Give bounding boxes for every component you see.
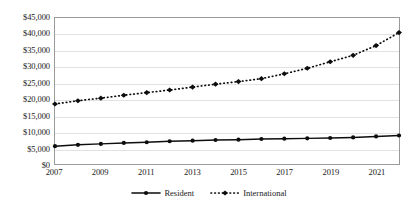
legend-item-resident[interactable]: Resident bbox=[131, 188, 194, 198]
x-tick-label: 2015 bbox=[230, 167, 247, 178]
x-tick-label: 2021 bbox=[369, 167, 386, 178]
y-tick-label: $25,000 bbox=[0, 78, 50, 87]
data-point bbox=[53, 144, 57, 148]
series-resident bbox=[53, 133, 401, 148]
y-tick-label: $20,000 bbox=[0, 95, 50, 104]
data-point bbox=[327, 59, 333, 64]
series-international bbox=[52, 30, 402, 107]
data-point bbox=[121, 93, 127, 98]
data-point bbox=[236, 138, 240, 142]
legend-swatch-circle-icon bbox=[131, 188, 161, 198]
x-tick-label: 2019 bbox=[322, 167, 339, 178]
y-tick-label: $45,000 bbox=[0, 13, 50, 22]
data-point bbox=[397, 133, 401, 137]
data-point bbox=[190, 85, 196, 90]
y-tick-label: $10,000 bbox=[0, 128, 50, 137]
data-point bbox=[168, 139, 172, 143]
data-point bbox=[75, 98, 81, 103]
data-point bbox=[145, 140, 149, 144]
data-point bbox=[167, 87, 173, 92]
data-point bbox=[98, 96, 104, 101]
data-point bbox=[76, 143, 80, 147]
data-point bbox=[213, 82, 219, 87]
data-point bbox=[328, 136, 332, 140]
data-point bbox=[213, 138, 217, 142]
data-point bbox=[259, 137, 263, 141]
data-point bbox=[374, 134, 378, 138]
data-point bbox=[99, 142, 103, 146]
data-point bbox=[282, 137, 286, 141]
x-axis: 20072009201120132015201720192021 bbox=[54, 167, 400, 181]
y-axis: $0$5,000$10,000$15,000$20,000$25,000$30,… bbox=[0, 17, 50, 165]
series-line bbox=[55, 33, 399, 104]
x-tick-label: 2009 bbox=[92, 167, 109, 178]
data-point bbox=[258, 76, 264, 81]
y-tick-label: $40,000 bbox=[0, 29, 50, 38]
plot-area bbox=[54, 17, 400, 165]
y-tick-label: $15,000 bbox=[0, 111, 50, 120]
data-point bbox=[350, 53, 356, 58]
data-point bbox=[305, 136, 309, 140]
y-tick-label: $35,000 bbox=[0, 45, 50, 54]
data-point bbox=[144, 90, 150, 95]
x-tick-label: 2017 bbox=[276, 167, 293, 178]
series-layer bbox=[55, 18, 399, 164]
y-tick-label: $0 bbox=[0, 161, 50, 170]
legend-swatch-diamond-icon bbox=[210, 188, 240, 198]
data-point bbox=[235, 79, 241, 84]
series-line bbox=[55, 135, 399, 146]
data-point bbox=[52, 101, 58, 106]
data-point bbox=[281, 71, 287, 76]
data-point bbox=[191, 139, 195, 143]
legend-item-international[interactable]: International bbox=[210, 188, 286, 198]
data-point bbox=[351, 135, 355, 139]
legend-label: International bbox=[243, 188, 286, 198]
x-tick-label: 2013 bbox=[184, 167, 201, 178]
data-point bbox=[304, 66, 310, 71]
y-tick-label: $5,000 bbox=[0, 144, 50, 153]
data-point bbox=[122, 141, 126, 145]
chart-legend: ResidentInternational bbox=[0, 188, 418, 198]
y-tick-label: $30,000 bbox=[0, 62, 50, 71]
tuition-line-chart: $0$5,000$10,000$15,000$20,000$25,000$30,… bbox=[0, 0, 418, 212]
x-tick-label: 2011 bbox=[138, 167, 154, 178]
x-tick-label: 2007 bbox=[46, 167, 63, 178]
legend-label: Resident bbox=[164, 188, 194, 198]
